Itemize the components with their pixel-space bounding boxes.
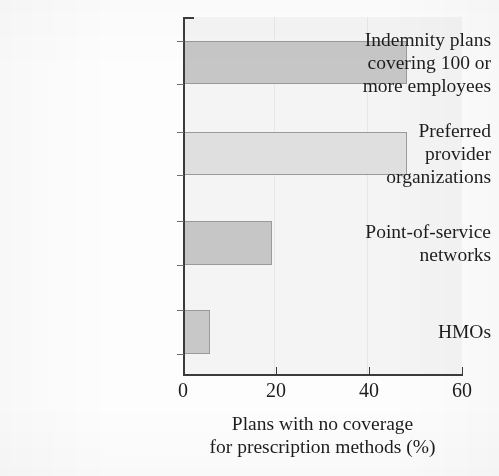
x-tick-mark-40 [369, 367, 370, 375]
y-tick-7 [177, 354, 184, 355]
y-axis-line [183, 17, 185, 375]
x-axis-title: Plans with no coverage for prescription … [150, 412, 495, 458]
x-axis-title-line-2: for prescription methods (%) [150, 435, 495, 458]
x-tick-mark-20 [276, 367, 277, 375]
category-label-line: more employees [323, 74, 491, 97]
category-label-hmos: HMOs [323, 320, 499, 343]
x-tick-mark-60 [462, 367, 463, 375]
y-tick-0 [177, 41, 184, 42]
category-label-point-of-service-networks: Point-of-service networks [323, 220, 499, 266]
category-label-preferred-provider-organizations: Preferred provider organizations [323, 119, 499, 188]
category-label-line: networks [323, 243, 491, 266]
bar-point-of-service-networks[interactable] [184, 221, 272, 265]
category-label-line: HMOs [323, 320, 491, 343]
bar-chart-figure: Indemnity plans covering 100 or more emp… [0, 0, 499, 476]
category-label-line: Preferred [323, 119, 491, 142]
y-axis-top-tick [183, 17, 194, 19]
x-tick-label-60: 60 [439, 378, 485, 402]
category-label-line: covering 100 or [323, 51, 491, 74]
x-axis-line [183, 374, 463, 376]
y-tick-4 [177, 221, 184, 222]
category-label-line: provider [323, 142, 491, 165]
y-tick-1 [177, 84, 184, 85]
x-tick-mark-0 [183, 367, 184, 375]
x-tick-label-0: 0 [160, 378, 206, 402]
category-label-line: Point-of-service [323, 220, 491, 243]
bar-hmos[interactable] [184, 310, 210, 354]
y-tick-6 [177, 310, 184, 311]
y-tick-3 [177, 175, 184, 176]
category-label-line: Indemnity plans [323, 28, 491, 51]
x-axis-title-line-1: Plans with no coverage [150, 412, 495, 435]
y-tick-2 [177, 132, 184, 133]
category-label-indemnity-plans: Indemnity plans covering 100 or more emp… [323, 28, 499, 97]
x-tick-label-40: 40 [346, 378, 392, 402]
category-label-line: organizations [323, 165, 491, 188]
y-tick-5 [177, 265, 184, 266]
x-tick-label-20: 20 [253, 378, 299, 402]
